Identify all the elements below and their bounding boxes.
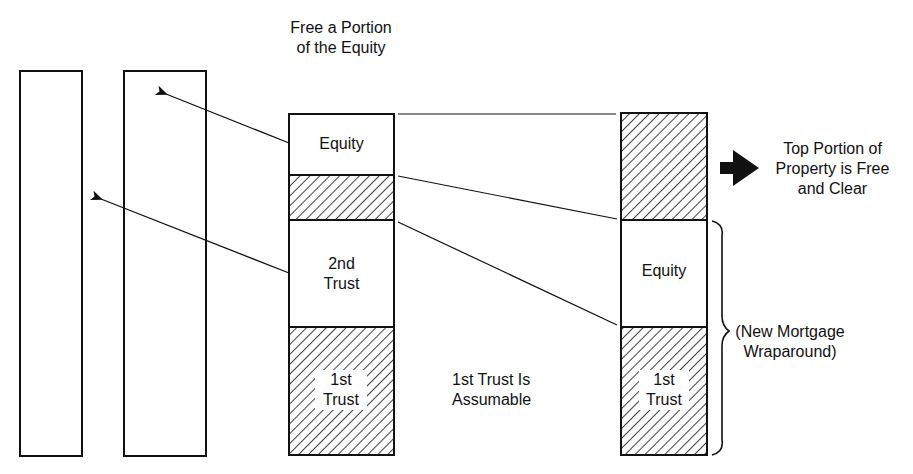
assumable-note-line-2: Assumable: [452, 390, 562, 410]
callout-line-2: Property is Free: [760, 159, 905, 179]
right-1st-trust-line-2: Trust: [639, 390, 689, 410]
free-and-clear-callout: Top Portion of Property is Free and Clea…: [760, 139, 905, 199]
empty-column-a: [20, 71, 82, 456]
center-2nd-trust-label: 2nd Trust: [289, 254, 394, 294]
title-line-2: of the Equity: [268, 38, 414, 58]
center-equity-text: Equity: [319, 135, 363, 152]
center-2nd-trust-line-1: 2nd: [289, 254, 394, 274]
callout-line-1: Top Portion of: [760, 139, 905, 159]
center-hatched-segment: [289, 175, 394, 220]
center-1st-trust-line-2: Trust: [315, 390, 367, 410]
center-2nd-trust-line-2: Trust: [289, 274, 394, 294]
bold-right-arrow-icon: [720, 150, 759, 186]
right-1st-trust-line-1: 1st: [639, 370, 689, 390]
center-1st-trust-label: 1st Trust: [315, 370, 367, 410]
wraparound-callout: (New Mortgage Wraparound): [730, 322, 850, 362]
right-1st-trust-label: 1st Trust: [639, 370, 689, 410]
callout-line-3: and Clear: [760, 179, 905, 199]
center-1st-trust-line-1: 1st: [315, 370, 367, 390]
empty-column-b: [124, 71, 206, 456]
connector-hatch-bottom: [398, 222, 617, 325]
assumable-note-line-1: 1st Trust Is: [452, 370, 562, 390]
wraparound-line-2: Wraparound): [730, 342, 850, 362]
connector-hatch-top: [398, 176, 617, 219]
center-equity-label: Equity: [289, 134, 394, 154]
title-line-1: Free a Portion: [268, 18, 414, 38]
right-equity-text: Equity: [642, 262, 686, 279]
curly-brace-icon: [712, 221, 729, 455]
wraparound-line-1: (New Mortgage: [730, 322, 850, 342]
right-equity-label: Equity: [621, 261, 707, 281]
right-hatched-segment: [621, 113, 707, 220]
assumable-note: 1st Trust Is Assumable: [452, 370, 562, 410]
diagram-title: Free a Portion of the Equity: [268, 18, 414, 58]
